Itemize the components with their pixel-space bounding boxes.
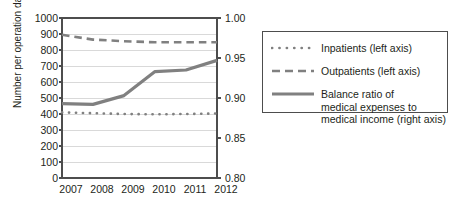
gridlines	[62, 34, 217, 162]
chart-legend: Inpatients (left axis) Outpatients (left…	[262, 31, 448, 113]
dotted-line-swatch-icon	[271, 42, 315, 54]
data-series-group	[62, 35, 217, 115]
legend-label: Balance ratio of medical expenses to med…	[321, 88, 446, 126]
legend-label: Inpatients (left axis)	[321, 42, 412, 55]
dashed-line-swatch-icon	[271, 65, 315, 77]
chart-figure: Number per operation day 1000 900 800 70…	[0, 0, 452, 215]
legend-label: Outpatients (left axis)	[321, 65, 420, 78]
legend-item-outpatients: Outpatients (left axis)	[271, 65, 420, 78]
legend-item-inpatients: Inpatients (left axis)	[271, 42, 412, 55]
legend-item-balance-ratio: Balance ratio of medical expenses to med…	[271, 88, 446, 126]
series-line-1	[62, 35, 217, 43]
solid-line-swatch-icon	[271, 88, 315, 100]
